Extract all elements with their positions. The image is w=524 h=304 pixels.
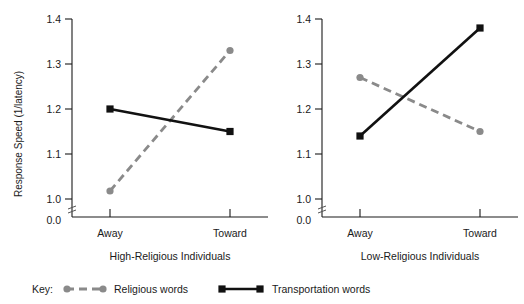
- panel1-ytick-4: 1.0: [46, 193, 61, 205]
- panel2-xcat-toward: Toward: [463, 227, 497, 239]
- panel2-transportation-marker-away: [356, 132, 363, 139]
- panel1-ytick-2: 1.2: [46, 103, 61, 115]
- panel2-x-ticks: [360, 209, 480, 217]
- y-axis-label: Response Speed (1/latency): [13, 71, 24, 197]
- panel2-y-ticks: [315, 19, 322, 199]
- panel1-religious-marker-toward: [226, 47, 233, 54]
- panel2-ytick-4: 1.0: [296, 193, 311, 205]
- panel1-xcat-away: Away: [97, 227, 123, 239]
- panel2-transportation-marker-toward: [476, 24, 483, 31]
- line-chart-figure: Response Speed (1/latency) 1.4: [0, 0, 524, 304]
- panel1-series-transportation-words: [106, 105, 233, 135]
- y-axis-label-text: Response Speed (1/latency): [13, 71, 24, 197]
- panel-low-religious: 1.4 1.3 1.2 1.1 1.0 0.0 Away Toward: [296, 13, 518, 262]
- panel1-y-tick-labels: 1.4 1.3 1.2 1.1 1.0 0.0: [46, 13, 61, 226]
- panel2-ytick-3: 1.1: [296, 148, 311, 160]
- legend-key-label: Key:: [32, 283, 53, 295]
- legend-label-religious-words: Religious words: [114, 283, 188, 295]
- panel-high-religious: 1.4 1.3 1.2 1.1 1.0 0.0 Away Toward: [46, 13, 268, 262]
- panel1-religious-marker-away: [106, 187, 113, 194]
- panel2-ytick-0: 1.4: [296, 13, 311, 25]
- legend-entry-transportation-words: Transportation words: [218, 283, 370, 295]
- panel2-religious-marker-toward: [476, 128, 483, 135]
- panel1-x-ticks: [110, 209, 230, 217]
- panel1-ytick-0: 1.4: [46, 13, 61, 25]
- panel2-religious-marker-away: [356, 74, 363, 81]
- legend-circle-marker-icon-right: [99, 285, 106, 292]
- panel1-ytick-5: 0.0: [46, 214, 61, 226]
- legend-square-marker-icon-left: [218, 285, 225, 292]
- panel1-transportation-marker-away: [106, 105, 113, 112]
- panel2-y-tick-labels: 1.4 1.3 1.2 1.1 1.0 0.0: [296, 13, 311, 226]
- panel2-series-transportation-words: [356, 24, 483, 139]
- panel1-ytick-1: 1.3: [46, 58, 61, 70]
- figure-container: Response Speed (1/latency) 1.4: [0, 0, 524, 304]
- legend-square-marker-icon-right: [256, 285, 263, 292]
- panel1-ytick-3: 1.1: [46, 148, 61, 160]
- panel2-xcat-away: Away: [347, 227, 373, 239]
- panel2-ytick-1: 1.3: [296, 58, 311, 70]
- panel2-ytick-2: 1.2: [296, 103, 311, 115]
- panel1-title: High-Religious Individuals: [110, 250, 231, 262]
- legend-label-transportation-words: Transportation words: [272, 283, 370, 295]
- legend-circle-marker-icon-left: [63, 285, 70, 292]
- legend: Key: Religious words Transportation word…: [32, 283, 370, 295]
- legend-entry-religious-words: Religious words: [63, 283, 188, 295]
- panel2-title: Low-Religious Individuals: [361, 250, 479, 262]
- panel1-xcat-toward: Toward: [213, 227, 247, 239]
- panel1-y-ticks: [65, 19, 72, 199]
- panel2-ytick-5: 0.0: [296, 214, 311, 226]
- panel1-transportation-marker-toward: [226, 128, 233, 135]
